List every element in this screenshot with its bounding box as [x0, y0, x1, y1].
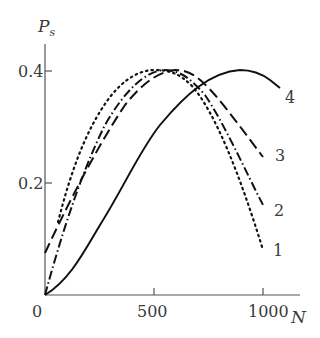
- y-tick-label-02: 0.2: [18, 174, 43, 193]
- axes: [45, 44, 300, 295]
- curve-label-3: 3: [275, 146, 285, 165]
- curve-label-4: 4: [285, 88, 295, 107]
- x-tick-label-0: 0: [32, 302, 42, 321]
- x-axis-label: N: [290, 307, 307, 327]
- y-tick-label-04: 0.4: [18, 62, 43, 81]
- y-axis-label: Ps: [37, 16, 55, 39]
- curve-label-2: 2: [274, 201, 284, 220]
- line-chart: Ps 0.4 0.2 0 500 1000 N 1 2 3 4: [0, 0, 320, 338]
- x-tick-label-500: 500: [137, 302, 168, 321]
- curve-1-dotted: [58, 70, 263, 250]
- curve-label-1: 1: [273, 241, 283, 260]
- x-tick-label-1000: 1000: [248, 302, 289, 321]
- curve-3-dashed: [45, 70, 263, 253]
